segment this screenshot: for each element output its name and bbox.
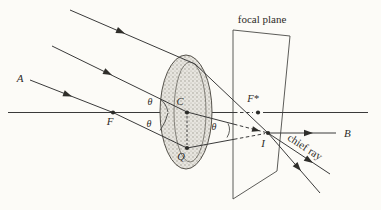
theta-arc-image (227, 124, 230, 138)
point-dot-f-star (256, 110, 260, 114)
label-f: F (106, 115, 114, 127)
lens-focal-plane-figure: focal plane chief ray A B C F F* I Q θ θ… (0, 0, 381, 210)
label-f-star: F* (246, 93, 259, 104)
ray-b-arrowhead (304, 130, 313, 136)
focal-plane-label: focal plane (238, 13, 287, 25)
point-dot-q (185, 146, 189, 150)
ray-a-arrowhead (62, 90, 73, 99)
point-dot-c (185, 110, 189, 114)
chief-ray-in-arrowhead (103, 68, 114, 78)
point-dot-i (266, 131, 270, 135)
chief-ray-dashed-arrowhead (252, 126, 261, 133)
label-theta-image: θ (212, 121, 217, 132)
label-b: B (344, 127, 351, 139)
label-theta-lower: θ (147, 118, 152, 129)
label-q: Q (177, 151, 185, 162)
diagram-canvas: focal plane chief ray A B C F F* I Q θ θ… (0, 0, 381, 210)
point-dot-f (111, 110, 115, 114)
label-a: A (16, 72, 24, 84)
focal-plane-outline (233, 30, 290, 199)
label-c: C (176, 96, 184, 107)
label-i: I (260, 137, 266, 149)
ray-top-arrowhead (115, 27, 126, 36)
label-theta-upper: θ (148, 96, 153, 107)
